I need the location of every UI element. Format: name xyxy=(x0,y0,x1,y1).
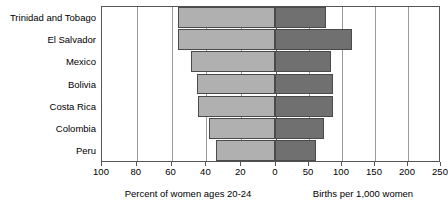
category-label: Costa Rica xyxy=(0,101,96,112)
tick-left-100: 100 xyxy=(93,166,109,177)
bars-layer xyxy=(101,6,440,162)
bar-left-percent xyxy=(216,140,275,161)
bar-right-births xyxy=(275,29,352,50)
bar-right-births xyxy=(275,51,331,72)
category-label: Colombia xyxy=(0,123,96,134)
tick-right-100: 100 xyxy=(333,166,349,177)
tick-right-0-mark xyxy=(275,162,276,166)
category-label: Trinidad and Tobago xyxy=(0,12,96,23)
tick-left-80: 80 xyxy=(131,166,142,177)
category-label: Mexico xyxy=(0,56,96,67)
bar-left-percent xyxy=(198,96,275,117)
bar-left-percent xyxy=(178,29,275,50)
tick-right-150-mark xyxy=(374,162,375,166)
value-axis-tick-labels: 10080604020050100150200250 xyxy=(0,166,446,179)
bar-right-births xyxy=(275,118,324,139)
tick-right-200: 200 xyxy=(399,166,415,177)
tick-left-20: 20 xyxy=(235,166,246,177)
tick-right-250: 250 xyxy=(432,166,448,177)
tick-right-50: 50 xyxy=(303,166,314,177)
bar-right-births xyxy=(275,7,326,28)
category-label: Peru xyxy=(0,145,96,156)
tick-left-40: 40 xyxy=(200,166,211,177)
tick-right-250-mark xyxy=(440,162,441,166)
right-axis-caption: Births per 1,000 women xyxy=(313,188,413,200)
bar-left-percent xyxy=(209,118,275,139)
left-axis-caption: Percent of women ages 20-24 xyxy=(125,188,252,200)
bar-left-percent xyxy=(191,51,275,72)
tick-right-0: 0 xyxy=(272,166,277,177)
bar-left-percent xyxy=(197,74,275,95)
category-axis-labels: Trinidad and TobagoEl SalvadorMexicoBoli… xyxy=(0,7,96,161)
tick-right-50-mark xyxy=(308,162,309,166)
tick-left-60: 60 xyxy=(165,166,176,177)
bar-left-percent xyxy=(178,7,275,28)
tick-left-100-mark xyxy=(101,162,102,166)
bar-right-births xyxy=(275,96,333,117)
tick-left-40-mark xyxy=(205,162,206,166)
bar-right-births xyxy=(275,140,316,161)
bar-right-births xyxy=(275,74,333,95)
tick-right-200-mark xyxy=(407,162,408,166)
tick-left-60-mark xyxy=(171,162,172,166)
tick-left-20-mark xyxy=(240,162,241,166)
tick-right-100-mark xyxy=(341,162,342,166)
category-label: El Salvador xyxy=(0,34,96,45)
tick-left-80-mark xyxy=(136,162,137,166)
category-label: Bolivia xyxy=(0,79,96,90)
tick-right-150: 150 xyxy=(366,166,382,177)
